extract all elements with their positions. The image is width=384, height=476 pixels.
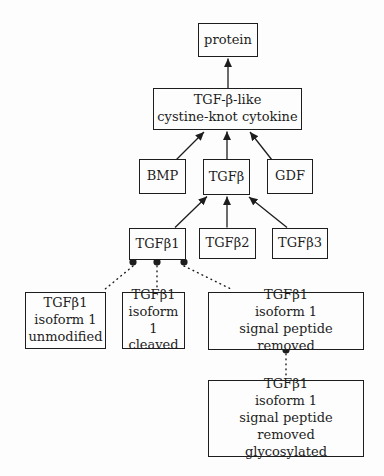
edge-tgfb3-to-tgfb [249, 197, 287, 228]
node-isoform1-signal-peptide-removed: TGFβ1 isoform 1 signal peptide removed [208, 292, 364, 350]
node-isoform1-signal-peptide-removed-glycosylated: TGFβ1 isoform 1 signal peptide removed g… [208, 380, 364, 457]
node-tgf-beta: TGFβ [203, 159, 250, 195]
node-isoform1-cleaved: TGFβ1 isoform 1 cleaved [122, 292, 185, 349]
node-tgf-beta-like-cystine-knot-cytokine: TGF-β-like cystine-knot cytokine [153, 88, 302, 130]
node-bmp: BMP [139, 159, 186, 194]
node-protein: protein [198, 23, 258, 57]
edge-gdf-to-cytokine [250, 132, 272, 160]
node-tgf-beta-1: TGFβ1 [129, 228, 186, 260]
node-tgf-beta-3: TGFβ3 [272, 228, 328, 259]
node-gdf: GDF [267, 159, 313, 194]
protein-hierarchy-diagram: protein TGF-β-like cystine-knot cytokine… [0, 0, 384, 476]
edge-bmp-to-cytokine [176, 132, 204, 160]
node-isoform1-unmodified: TGFβ1 isoform 1 unmodified [25, 292, 106, 349]
edge-tgfb1-to-tgfb [175, 197, 207, 228]
node-tgf-beta-2: TGFβ2 [199, 228, 256, 259]
